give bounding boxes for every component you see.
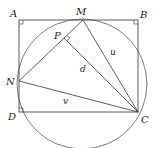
circumscribed-circle xyxy=(17,19,147,148)
geometry-diagram: A B C D M N P u d v xyxy=(0,0,157,148)
label-d-seg: d xyxy=(80,64,86,74)
segment-mc-u xyxy=(83,20,138,112)
segment-mn xyxy=(19,20,83,81)
label-p: P xyxy=(53,30,61,41)
label-v: v xyxy=(63,96,68,106)
label-m: M xyxy=(75,6,87,17)
label-n: N xyxy=(5,76,16,87)
segment-nc-v xyxy=(19,81,138,112)
right-angle-a xyxy=(19,20,23,24)
label-u: u xyxy=(110,47,116,57)
segment-pc-d xyxy=(64,38,138,112)
right-angle-b xyxy=(134,20,138,24)
label-a: A xyxy=(9,8,17,19)
label-c: C xyxy=(141,114,149,125)
label-d: D xyxy=(7,111,16,122)
right-angle-p xyxy=(67,35,70,41)
square-abcd xyxy=(19,20,138,112)
label-b: B xyxy=(139,9,147,20)
